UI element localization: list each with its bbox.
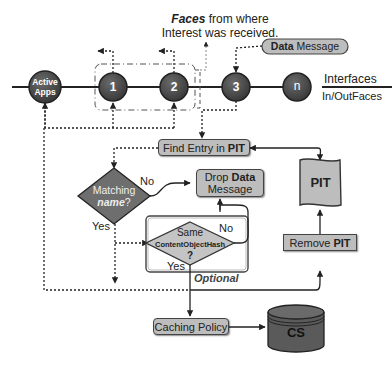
same-hash-line3: ? [187, 250, 193, 261]
optional-label: Optional [194, 272, 239, 284]
find-entry-in-pit-box: Find Entry in PIT [158, 139, 250, 156]
interfaces-label: Interfaces [324, 72, 377, 86]
matching-line2-bold: name [97, 196, 124, 208]
find-entry-text: Find Entry in [163, 142, 228, 154]
faces-title-bold: Faces [171, 12, 205, 26]
same-hash-line2: ContentObjectHash [155, 240, 225, 249]
face-3-label[interactable]: 3 [226, 80, 246, 94]
drop-data-message-box: Drop Data Message [196, 169, 264, 197]
matching-no-label: No [140, 175, 154, 187]
faces-title-line2: Interest was received. [162, 26, 279, 40]
cs-label: CS [268, 325, 324, 340]
matching-name-label: Matchingname? [88, 184, 140, 208]
faces-title-rest: from where [205, 12, 268, 26]
active-apps-label[interactable]: ActiveApps [29, 77, 61, 97]
find-entry-bold: PIT [228, 142, 245, 154]
matching-line2-rest: ? [125, 196, 131, 208]
active-apps-line1: Active [32, 77, 58, 87]
pit-label: PIT [300, 175, 341, 190]
data-message-bold: Data [271, 40, 294, 52]
remove-pit-text: Remove [289, 237, 333, 249]
face-1-label[interactable]: 1 [103, 80, 123, 94]
same-hash-label: Same ContentObjectHash ? [150, 227, 230, 261]
drop-line1: Drop [205, 171, 232, 183]
same-hash-no-label: No [219, 222, 233, 234]
remove-pit-bold: PIT [333, 237, 350, 249]
inoutfaces-label: In/OutFaces [322, 90, 382, 102]
remove-pit-box: Remove PIT [283, 234, 357, 251]
matching-yes-label: Yes [92, 220, 110, 232]
faces-title: Faces from where Interest was received. [135, 12, 305, 40]
same-hash-line1: Same [177, 227, 203, 238]
active-apps-line2: Apps [34, 87, 55, 97]
caching-policy-box: Caching Policy [153, 318, 229, 335]
data-message-label: Data Message [262, 40, 348, 53]
drop-line1-bold: Data [232, 171, 256, 183]
face-2-label[interactable]: 2 [164, 80, 184, 94]
data-message-rest: Message [294, 40, 340, 52]
drop-line2: Message [208, 183, 253, 195]
matching-line1: Matching [93, 184, 136, 196]
same-hash-yes-label: Yes [167, 260, 185, 272]
face-n-label[interactable]: n [287, 79, 307, 93]
